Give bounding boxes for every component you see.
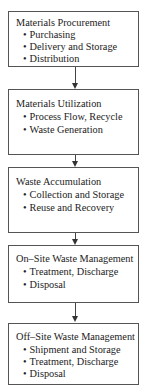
step-item: Waste Generation: [23, 124, 103, 135]
step-item: Purchasing: [23, 29, 75, 40]
step-item: Distribution: [23, 53, 79, 64]
step-box-materials-procurement: Materials Procurement Purchasing Deliver…: [8, 11, 139, 67]
step-item: Shipment and Storage: [23, 344, 121, 355]
step-title: Off–Site Waste Management: [16, 331, 135, 342]
step-box-on-site-waste-management: On–Site Waste Management Treatment, Disc…: [8, 245, 139, 303]
step-item: Disposal: [23, 279, 66, 290]
connector-arrow: [75, 67, 76, 83]
step-item: Disposal: [23, 368, 66, 379]
step-title: Waste Accumulation: [16, 176, 101, 187]
step-title: Materials Utilization: [16, 98, 102, 109]
step-item: Process Flow, Recycle: [23, 111, 122, 122]
step-item: Treatment, Discharge: [23, 266, 118, 277]
step-box-waste-accumulation: Waste Accumulation Collection and Storag…: [8, 167, 139, 233]
step-item: Collection and Storage: [23, 189, 124, 200]
step-item: Delivery and Storage: [23, 41, 117, 52]
step-box-off-site-waste-management: Off–Site Waste Management Shipment and S…: [8, 323, 139, 385]
step-box-materials-utilization: Materials Utilization Process Flow, Recy…: [8, 89, 139, 155]
step-title: Materials Procurement: [16, 17, 110, 28]
step-item: Reuse and Recovery: [23, 202, 114, 213]
step-title: On–Site Waste Management: [16, 253, 133, 264]
arrowhead-icon: [72, 316, 78, 322]
step-item: Treatment, Discharge: [23, 356, 118, 367]
connector-arrow: [75, 303, 76, 317]
